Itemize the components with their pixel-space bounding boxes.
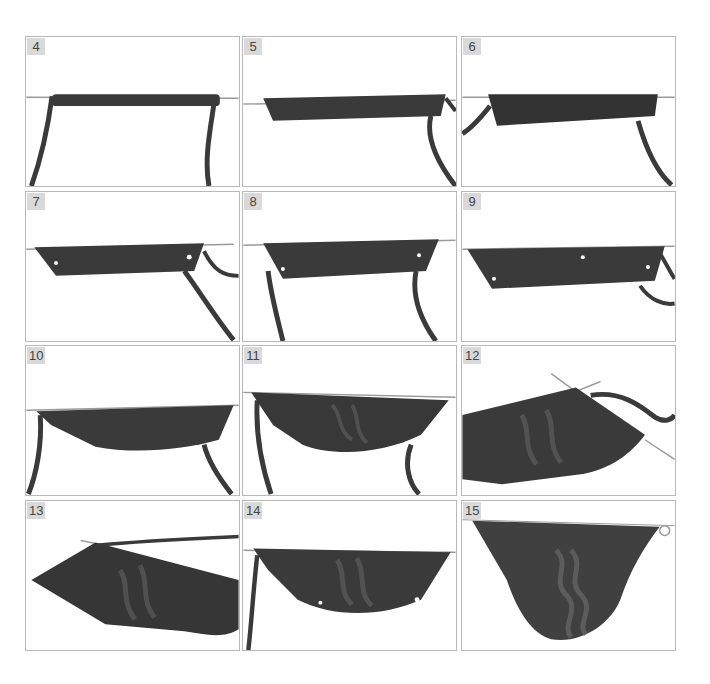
step-number-badge: 15: [463, 502, 481, 519]
step-panel-14: 14: [242, 500, 457, 651]
knitting-photo-cable-rows: [243, 192, 456, 341]
knitting-photo-angled-piece: [462, 346, 675, 495]
step-number-badge: 5: [244, 38, 262, 55]
knitting-photo-short-row-turn: [26, 192, 239, 341]
step-panel-8: 8: [242, 191, 457, 342]
step-panel-11: 11: [242, 345, 457, 496]
step-panel-15: 15: [461, 500, 676, 651]
step-number-badge: 8: [244, 193, 262, 210]
step-panel-10: 10: [25, 345, 240, 496]
step-panel-5: 5: [242, 36, 457, 187]
knitting-photo-cast-on-row: [26, 37, 239, 186]
step-panel-9: 9: [461, 191, 676, 342]
knitting-photo-row-3: [462, 37, 675, 186]
step-number-badge: 9: [463, 193, 481, 210]
step-number-badge: 7: [27, 193, 45, 210]
step-panel-4: 4: [25, 36, 240, 187]
step-number-badge: 10: [27, 347, 45, 364]
knitting-photo-curved-piece: [243, 501, 456, 650]
knitting-photo-turned-piece: [26, 501, 239, 650]
knitting-photo-shaped-piece: [26, 346, 239, 495]
knitting-photo-wedge: [243, 346, 456, 495]
step-panel-7: 7: [25, 191, 240, 342]
knitting-photo-row-2: [243, 37, 456, 186]
knitting-photo-cable-cross: [462, 192, 675, 341]
step-number-badge: 4: [27, 38, 45, 55]
step-panel-12: 12: [461, 345, 676, 496]
step-panel-13: 13: [25, 500, 240, 651]
step-number-badge: 14: [244, 502, 262, 519]
step-photo-grid: 4 5 6 7: [25, 36, 676, 653]
step-number-badge: 12: [463, 347, 481, 364]
step-number-badge: 13: [27, 502, 45, 519]
knitting-photo-finished-triangle: [462, 501, 675, 650]
step-panel-6: 6: [461, 36, 676, 187]
step-number-badge: 11: [244, 347, 262, 364]
step-number-badge: 6: [463, 38, 481, 55]
